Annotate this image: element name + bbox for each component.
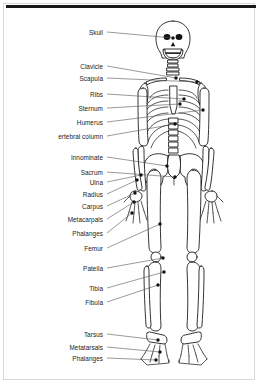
left-phalanx-4-icon	[144, 211, 147, 220]
leader-line-phalanges-foot	[107, 358, 156, 360]
rib-right-1-icon	[179, 90, 197, 98]
anchor-dot-phalanges-hand	[130, 211, 133, 214]
rib-right-7-icon	[178, 125, 199, 142]
anchor-dot-fibula	[156, 283, 159, 286]
skull-group	[156, 21, 190, 60]
label-metatarsals: Metatarsals	[0, 344, 103, 351]
cervical-vertebra-2-icon	[168, 64, 178, 67]
right-carpus-icon	[205, 191, 217, 202]
left-metacarpal-4-icon	[141, 201, 144, 211]
rib-left-2-icon	[147, 95, 168, 105]
label-vertebral-column: ertebral column	[0, 133, 103, 140]
anchor-dot-sternum	[178, 102, 181, 105]
right-metatarsal-1-icon	[198, 344, 203, 353]
left-metatarsal-2-icon	[152, 345, 155, 355]
cervical-vertebra-4-icon	[167, 72, 179, 75]
label-sacrum: Sacrum	[0, 169, 103, 176]
anchor-dot-metacarpals	[132, 200, 135, 203]
right-phalanx-1-icon	[218, 212, 221, 221]
left-femur-icon	[147, 170, 161, 253]
cervical-vertebra-3-icon	[167, 68, 179, 71]
left-arm-group	[124, 88, 148, 223]
left-metacarpal-3-icon	[138, 202, 139, 213]
right-femur-icon	[187, 170, 201, 253]
left-phalanx-2-icon	[133, 213, 134, 223]
anchor-dot-carpus	[133, 191, 136, 194]
rib-right-8-icon	[178, 131, 196, 148]
label-clavicle: Clavicle	[0, 63, 103, 70]
leader-line-metatarsals	[107, 347, 160, 352]
label-patella: Patella	[0, 265, 103, 272]
label-radius: Radius	[0, 191, 103, 198]
label-skull: Skull	[0, 29, 103, 36]
lumbar-vertebra-1-icon	[169, 118, 178, 123]
sacrum-icon	[168, 155, 181, 179]
lumbar-vertebra-6-icon	[169, 148, 178, 153]
right-metacarpal-2-icon	[212, 202, 213, 213]
right-tarsus-icon	[181, 332, 201, 344]
left-phalanx-3-icon	[139, 213, 140, 223]
left-tarsus-icon	[147, 332, 167, 344]
label-femur: Femur	[0, 245, 103, 252]
anchor-dot-scapula	[195, 80, 198, 83]
right-thumb-icon	[217, 196, 223, 202]
right-foot-phalanx-2-icon	[196, 355, 198, 362]
rib-left-7-icon	[148, 125, 169, 142]
leader-line-metacarpals	[107, 202, 134, 219]
right-phalanx-2-icon	[213, 213, 214, 223]
label-fibula: Fibula	[0, 299, 103, 306]
left-metatarsal-4-icon	[165, 344, 167, 355]
teeth-line-icon	[165, 53, 182, 54]
right-foot-outline-icon	[179, 359, 207, 365]
anchor-dot-tibia	[162, 270, 165, 273]
anchor-dot-ulna	[139, 173, 142, 176]
right-foot-phalanx-1-icon	[203, 353, 207, 359]
anchor-dot-ribs	[182, 97, 185, 100]
label-phalanges-foot: Phalanges	[0, 355, 103, 362]
right-leg-group	[179, 170, 207, 365]
anchor-dot-clavicle	[174, 76, 177, 79]
right-arm-group	[199, 88, 223, 223]
label-ulna: Ulna	[0, 179, 103, 186]
label-tarsus: Tarsus	[0, 331, 103, 338]
anchor-dot-metatarsals	[158, 350, 161, 353]
label-metacarpals: Metacarpals	[0, 216, 103, 223]
label-scapula: Scapula	[0, 75, 103, 82]
leader-line-humerus	[107, 110, 203, 122]
label-tibia: Tibia	[0, 285, 103, 292]
rib-right-6-icon	[178, 119, 201, 135]
label-innominate: Innominate	[0, 154, 103, 161]
lumbar-vertebra-3-icon	[169, 130, 178, 135]
cervical-vertebra-1-icon	[168, 60, 178, 63]
left-leg-group	[141, 170, 169, 365]
right-eye-socket-icon	[176, 34, 183, 40]
right-phalanx-3-icon	[207, 213, 208, 223]
left-clavicle-icon	[146, 78, 166, 85]
label-phalanges-hand: Phalanges	[0, 230, 103, 237]
left-foot-phalanx-2-icon	[150, 355, 152, 362]
left-foot-phalanx-1-icon	[141, 353, 145, 359]
rib-right-2-icon	[179, 95, 200, 105]
right-humerus-icon	[199, 88, 209, 146]
anchor-dot-radius	[135, 178, 138, 181]
anchor-dot-femur	[158, 222, 161, 225]
lumbar-vertebra-5-icon	[169, 142, 178, 147]
label-carpus: Carpus	[0, 203, 103, 210]
label-ribs: Ribs	[0, 91, 103, 98]
leader-line-clavicle	[107, 66, 176, 78]
right-metacarpal-3-icon	[208, 202, 209, 213]
anchor-dot-tarsus	[156, 338, 159, 341]
label-sternum: Sternum	[0, 105, 103, 112]
cervical-vertebrae-group	[167, 60, 179, 75]
right-metacarpal-1-icon	[215, 202, 218, 212]
maxilla-icon	[164, 49, 182, 53]
anchor-dot-vertebral-column	[173, 122, 176, 125]
anchor-dot-phalanges-foot	[154, 358, 157, 361]
skeleton-figure	[124, 21, 223, 365]
anchor-dot-sacrum	[173, 175, 176, 178]
sternum-icon	[170, 86, 177, 114]
anchor-dot-innominate	[165, 164, 168, 167]
anchor-dot-patella	[161, 256, 164, 259]
right-patella-icon	[187, 252, 197, 262]
rib-left-8-icon	[151, 131, 169, 148]
